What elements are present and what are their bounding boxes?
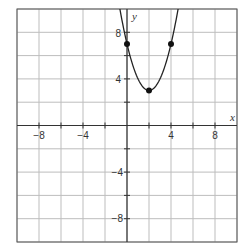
coordinate-plane: −8 −4 4 8 8 4 −4 −8 x y (0, 0, 250, 252)
y-tick-label: 4 (115, 74, 121, 85)
y-tick-label: −4 (112, 167, 124, 178)
data-point (124, 41, 130, 47)
x-tick-label: 8 (212, 130, 218, 141)
x-tick-label: 4 (168, 130, 174, 141)
y-tick-label: 8 (115, 28, 121, 39)
y-axis-label: y (131, 10, 137, 22)
x-axis-label: x (229, 111, 235, 123)
data-point (146, 88, 152, 94)
data-point (168, 41, 174, 47)
y-tick-label: −8 (112, 213, 124, 224)
x-tick-label: −8 (33, 130, 45, 141)
x-tick-label: −4 (77, 130, 89, 141)
